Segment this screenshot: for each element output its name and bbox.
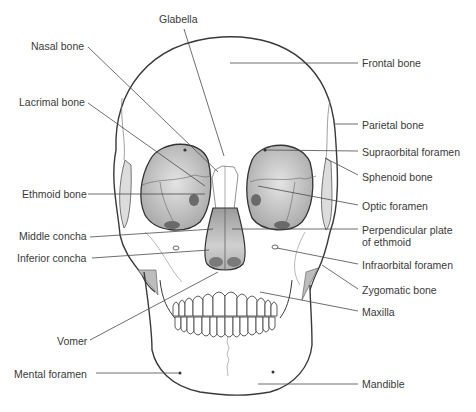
label-zygomatic-bone: Zygomatic bone — [362, 284, 437, 296]
label-supraorbital-foramen: Supraorbital foramen — [362, 146, 460, 158]
label-ethmoid-bone: Ethmoid bone — [22, 188, 87, 200]
label-middle-concha: Middle concha — [19, 230, 87, 242]
label-infraorbital-foramen: Infraorbital foramen — [362, 259, 453, 271]
lower-teeth — [175, 317, 275, 337]
label-sphenoid-bone: Sphenoid bone — [362, 171, 433, 183]
label-perpendicular-plate: Perpendicular plate — [362, 224, 452, 236]
label-mandible: Mandible — [362, 378, 405, 390]
label-frontal-bone: Frontal bone — [362, 57, 421, 69]
right-orbit — [247, 145, 313, 230]
label-lacrimal-bone: Lacrimal bone — [19, 96, 85, 108]
label-vomer: Vomer — [57, 335, 87, 347]
label-inferior-concha: Inferior concha — [17, 252, 86, 264]
label-perpendicular-plate-line2: of ethmoid — [362, 236, 411, 248]
label-mental-foramen: Mental foramen — [14, 368, 87, 380]
label-glabella: Glabella — [159, 13, 198, 25]
label-optic-foramen: Optic foramen — [362, 200, 428, 212]
label-maxilla: Maxilla — [362, 306, 395, 318]
label-parietal-bone: Parietal bone — [362, 119, 424, 131]
skull-diagram: Glabella Nasal bone Lacrimal bone Ethmoi… — [0, 0, 476, 412]
left-orbit — [141, 144, 211, 230]
upper-teeth — [173, 292, 277, 316]
label-nasal-bone: Nasal bone — [31, 40, 84, 52]
